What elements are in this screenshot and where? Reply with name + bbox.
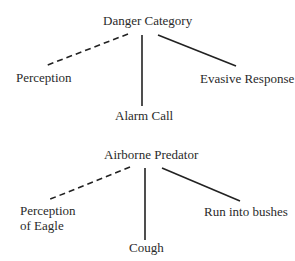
edge-danger-evasive-response [158,35,236,66]
node-perception-of-eagle-line1: Perception [20,204,76,218]
node-perception-of-eagle-line2: of Eagle [20,219,64,233]
edge-airborne-perception [48,167,130,200]
node-perception: Perception [16,71,72,85]
node-cough: Cough [129,241,164,255]
edge-airborne-run [162,168,240,201]
root-danger-category: Danger Category [103,14,192,28]
node-alarm-call: Alarm Call [115,109,173,123]
node-evasive-response: Evasive Response [200,72,294,86]
edge-danger-perception [45,34,128,66]
node-run-into-bushes: Run into bushes [204,205,288,219]
root-airborne-predator: Airborne Predator [104,148,198,162]
